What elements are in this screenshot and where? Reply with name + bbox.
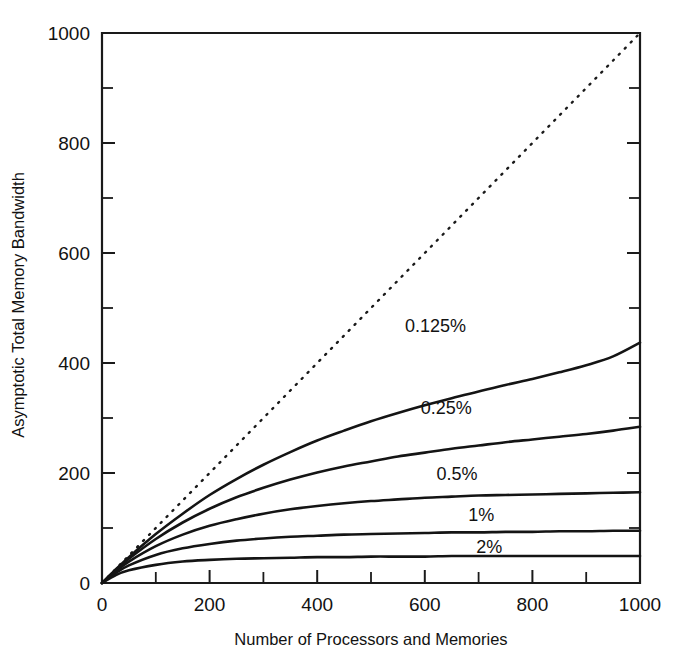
y-tick-label: 400	[58, 353, 90, 374]
x-tick-label: 600	[409, 594, 441, 615]
series-label-0125: 0.125%	[405, 316, 466, 336]
x-tick-label: 200	[194, 594, 226, 615]
x-axis-title: Number of Processors and Memories	[234, 630, 507, 648]
series-inline-labels: 0.125%0.25%0.5%1%2%	[405, 316, 502, 557]
y-tick-label: 600	[58, 243, 90, 264]
y-axis-title: Asymptotic Total Memory Bandwidth	[9, 172, 27, 438]
y-tick-label: 0	[79, 573, 90, 594]
x-tick-label: 1000	[619, 594, 661, 615]
data-series-group	[102, 33, 640, 583]
x-axis-ticks	[102, 570, 640, 583]
y-axis-tick-labels: 02004006008001000	[48, 23, 90, 594]
bandwidth-line-chart: 02004006008001000 02004006008001000 0.12…	[0, 0, 677, 664]
series-curve-05	[102, 492, 640, 583]
series-label-2: 2%	[476, 537, 502, 557]
series-label-05: 0.5%	[437, 464, 478, 484]
x-tick-label: 0	[97, 594, 108, 615]
series-label-025: 0.25%	[421, 398, 472, 418]
x-axis-tick-labels: 02004006008001000	[97, 594, 661, 615]
chart-figure: 02004006008001000 02004006008001000 0.12…	[0, 0, 677, 664]
y-tick-label: 1000	[48, 23, 90, 44]
y-tick-label: 800	[58, 133, 90, 154]
x-tick-label: 400	[301, 594, 333, 615]
x-tick-label: 800	[517, 594, 549, 615]
series-curve-025	[102, 427, 640, 583]
series-label-1: 1%	[468, 505, 494, 525]
series-curve-0125	[102, 343, 640, 583]
y-tick-label: 200	[58, 463, 90, 484]
